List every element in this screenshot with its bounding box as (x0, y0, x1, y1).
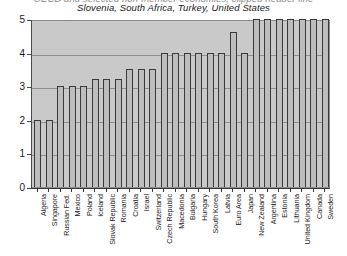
chart-title-line-2: Slovenia, South Africa, Turkey, United S… (0, 2, 347, 13)
x-axis-label: Slovak Republic (109, 194, 116, 245)
bar (264, 19, 271, 187)
x-axis-label: United Kingdom (304, 194, 311, 244)
bar (172, 53, 179, 187)
x-axis-label: Euro Area (235, 194, 242, 226)
x-tick-mark (324, 189, 325, 192)
bar (161, 53, 168, 187)
bar (69, 86, 76, 187)
bar (253, 19, 260, 187)
bar (126, 69, 133, 187)
x-axis-label: Poland (86, 194, 93, 216)
x-axis-label: Croatia (132, 194, 139, 217)
y-tick-mark (27, 154, 31, 155)
bar (149, 69, 156, 187)
x-tick-mark (313, 189, 314, 192)
bar (34, 120, 41, 187)
x-tick-mark (278, 189, 279, 192)
x-tick-mark (301, 189, 302, 192)
gridline (32, 155, 329, 156)
bar (195, 53, 202, 187)
bar (241, 53, 248, 187)
x-axis-label: Macedonia (178, 194, 185, 229)
y-tick-label: 2 (0, 116, 25, 126)
y-tick-mark (27, 54, 31, 55)
x-tick-mark (186, 189, 187, 192)
x-tick-mark (232, 189, 233, 192)
y-tick-label: 3 (0, 82, 25, 92)
bar (230, 32, 237, 187)
bar (276, 19, 283, 187)
bar (218, 53, 225, 187)
x-axis-label: Estonia (281, 194, 288, 218)
x-axis-label: Argentina (270, 194, 277, 224)
x-tick-mark (129, 189, 130, 192)
y-tick-mark (27, 20, 31, 21)
x-tick-mark (152, 189, 153, 192)
x-axis-label: Iceland (97, 194, 104, 217)
y-tick-label: 1 (0, 149, 25, 159)
bar (57, 86, 64, 187)
x-axis-label: Lithuania (293, 194, 300, 223)
gridline (32, 88, 329, 89)
x-axis-label: South Korea (212, 194, 219, 233)
y-tick-label: 4 (0, 49, 25, 59)
bar (322, 19, 329, 187)
x-axis-label: Bulgaria (189, 194, 196, 220)
bar (287, 19, 294, 187)
x-axis-line (31, 188, 330, 189)
x-tick-mark (37, 189, 38, 192)
bar (46, 120, 53, 187)
x-axis-label: Japan (247, 194, 254, 213)
x-tick-mark (94, 189, 95, 192)
y-tick-label: 0 (0, 183, 25, 193)
x-axis-label: Switzerland (155, 194, 162, 231)
x-tick-mark (71, 189, 72, 192)
x-tick-mark (60, 189, 61, 192)
x-axis-label: Canada (316, 194, 323, 219)
x-tick-mark (198, 189, 199, 192)
x-tick-mark (163, 189, 164, 192)
bar (138, 69, 145, 187)
x-tick-mark (290, 189, 291, 192)
bar (207, 53, 214, 187)
chart-screenshot: OECD and selected non-member economies, … (0, 0, 347, 256)
x-tick-mark (48, 189, 49, 192)
bar (92, 79, 99, 187)
bar (80, 86, 87, 187)
x-axis-label: Romania (120, 194, 127, 222)
x-axis-label: Russian Fed. (63, 194, 70, 236)
x-tick-mark (244, 189, 245, 192)
gridline (32, 55, 329, 56)
gridline (32, 122, 329, 123)
x-axis-label: Algeria (40, 194, 47, 216)
y-axis-line (31, 20, 32, 189)
x-axis-label: Hungary (201, 194, 208, 221)
bar (115, 79, 122, 187)
y-tick-mark (27, 121, 31, 122)
x-tick-mark (175, 189, 176, 192)
x-axis-label: New Zealand (258, 194, 265, 236)
x-tick-mark (140, 189, 141, 192)
x-tick-mark (267, 189, 268, 192)
y-tick-label: 5 (0, 15, 25, 25)
bar (103, 79, 110, 187)
x-tick-mark (117, 189, 118, 192)
bar (299, 19, 306, 187)
x-tick-mark (106, 189, 107, 192)
bar (310, 19, 317, 187)
x-axis-label: Sweden (327, 194, 334, 220)
x-axis-label: Israel (143, 194, 150, 211)
x-tick-mark (209, 189, 210, 192)
x-tick-mark (83, 189, 84, 192)
x-tick-mark (255, 189, 256, 192)
bar (184, 53, 191, 187)
y-tick-mark (27, 87, 31, 88)
x-axis-label: Czech Republic (166, 194, 173, 244)
x-axis-label: Latvia (224, 194, 231, 213)
x-axis-label: Singapore (51, 194, 58, 226)
plot-area (31, 20, 330, 188)
x-axis-label: Mexico (74, 194, 81, 216)
x-tick-mark (221, 189, 222, 192)
